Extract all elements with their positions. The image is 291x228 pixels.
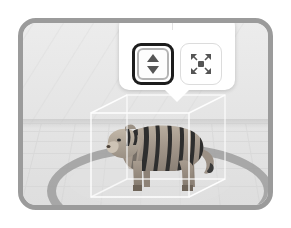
- tool-button-scale[interactable]: Resize: [180, 43, 222, 85]
- scale-arrows-icon: [188, 51, 214, 77]
- toolbar-divider: [172, 18, 173, 30]
- toolbar-pointer-tail: [164, 89, 190, 102]
- screenshot-root: 3D scene viewport: [0, 0, 291, 228]
- bounding-box-wireframe: [85, 91, 235, 203]
- selection-bounding-box[interactable]: Selected object bounding box: [85, 91, 235, 203]
- scene-viewport[interactable]: 3D scene viewport: [23, 23, 268, 205]
- arrows-up-down-icon: [143, 51, 163, 77]
- object-transform-toolbar[interactable]: object transform toolbar Move up and dow…: [119, 18, 235, 90]
- tool-button-move-vertical[interactable]: Move up and down: [132, 43, 174, 85]
- ar-viewport-frame: 3D scene viewport: [18, 18, 273, 210]
